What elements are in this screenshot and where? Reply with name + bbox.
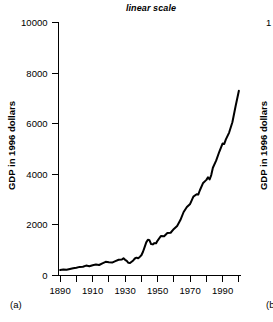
panel-label-a: (a) <box>10 299 22 310</box>
x-tick-label: 1930 <box>115 285 136 296</box>
panel-label-b: (b) <box>266 299 273 310</box>
axis-frame <box>59 23 241 276</box>
gdp-line-series <box>60 91 239 270</box>
y-tick-top-panel-b: 1 <box>266 17 271 28</box>
plot-area: 0200040006000800010000 18901910193019501… <box>0 0 245 300</box>
y-axis-ticks: 0200040006000800010000 <box>21 17 58 281</box>
y-tick-label: 6000 <box>26 118 47 129</box>
y-tick-label: 0 <box>42 270 47 281</box>
x-tick-label: 1970 <box>180 285 201 296</box>
panel-a-linear-scale: linear scale GDP in 1996 dollars 0200040… <box>0 0 245 322</box>
y-tick-label: 2000 <box>26 219 47 230</box>
y-tick-label: 10000 <box>21 17 47 28</box>
gdp-figure: linear scale GDP in 1996 dollars 0200040… <box>0 0 273 322</box>
y-tick-label: 4000 <box>26 169 47 180</box>
panel-b-clipped: GDP in 1996 dollars 1 (b) <box>245 0 273 322</box>
x-tick-label: 1890 <box>50 285 71 296</box>
x-axis-ticks: 189019101930195019701990 <box>50 276 239 296</box>
y-axis-label-panel-b: GDP in 1996 dollars <box>258 81 269 211</box>
x-tick-label: 1910 <box>82 285 103 296</box>
x-tick-label: 1990 <box>212 285 233 296</box>
y-tick-label: 8000 <box>26 68 47 79</box>
x-tick-label: 1950 <box>147 285 168 296</box>
